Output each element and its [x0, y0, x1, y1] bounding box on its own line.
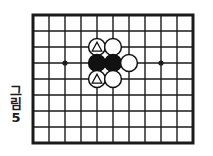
star-point-right	[158, 60, 163, 65]
white-stone-marked-top	[89, 39, 106, 56]
star-point-left	[62, 60, 67, 65]
board-canvas	[0, 0, 213, 156]
white-stone-right	[121, 55, 138, 72]
go-diagram-figure: 그 림 5	[0, 0, 213, 156]
black-stone-left	[89, 55, 106, 72]
white-stone	[121, 55, 138, 72]
stones-layer	[89, 39, 138, 88]
black-stone	[89, 55, 106, 72]
white-stone-top-right	[105, 39, 122, 56]
white-stone-bottom-right	[105, 71, 122, 88]
white-stone	[105, 71, 122, 88]
black-stone	[105, 55, 122, 72]
white-stone	[105, 39, 122, 56]
go-board	[0, 0, 213, 156]
black-stone-right	[105, 55, 122, 72]
white-stone-marked-bottom	[89, 71, 106, 88]
